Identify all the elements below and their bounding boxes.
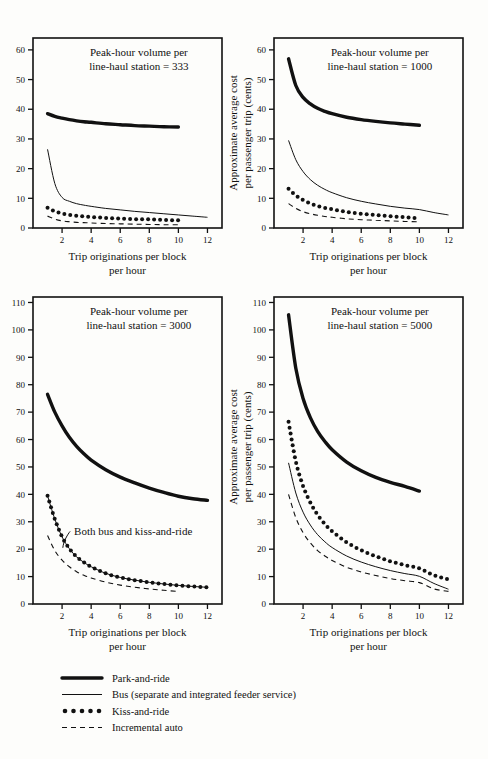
x-axis-label-line2: per hour: [109, 640, 146, 652]
y-tick-label: 0: [262, 223, 267, 233]
y-tick-label: 50: [16, 462, 26, 472]
panel-title-line1: Peak-hour volume per: [90, 305, 188, 317]
chart-panel-panel-1000: 010203040506024681012Peak-hour volume pe…: [257, 38, 463, 276]
x-axis-label-line2: per hour: [109, 264, 146, 276]
y-tick-label: 20: [257, 544, 267, 554]
y-tick-label: 90: [16, 353, 26, 363]
panel-title-line1: Peak-hour volume per: [90, 46, 188, 58]
x-tick-label: 6: [359, 235, 364, 245]
x-tick-label: 10: [415, 611, 425, 621]
x-axis-label-line2: per hour: [350, 264, 387, 276]
y-tick-label: 30: [257, 134, 267, 144]
legend-swatch-kiss: [63, 709, 102, 714]
y-tick-label: 20: [257, 164, 267, 174]
chart-panel-panel-5000: 010203040506070809010011024681012Peak-ho…: [253, 297, 464, 652]
x-tick-label: 10: [415, 235, 425, 245]
figure-root: 010203040506024681012Peak-hour volume pe…: [0, 0, 488, 759]
y-tick-label: 90: [257, 353, 267, 363]
y-tick-label: 40: [16, 104, 26, 114]
series-kiss-and-ride: [287, 187, 417, 220]
panel-title-line2: line-haul station = 1000: [327, 60, 432, 72]
y-tick-label: 110: [12, 298, 26, 308]
y-tick-label: 60: [257, 435, 267, 445]
x-tick-label: 8: [147, 235, 152, 245]
panel-title-line2: line-haul station = 5000: [327, 319, 432, 331]
legend: Park-and-rideBus (separate and integrate…: [62, 673, 296, 734]
legend-item-kiss: Kiss-and-ride: [63, 706, 170, 717]
x-tick-label: 8: [388, 235, 393, 245]
legend-label-park: Park-and-ride: [112, 673, 170, 684]
y-tick-label: 80: [257, 380, 267, 390]
x-tick-label: 6: [118, 611, 123, 621]
y-tick-label: 50: [16, 75, 26, 85]
x-tick-label: 12: [444, 611, 453, 621]
chart-panel-panel-333: 010203040506024681012Peak-hour volume pe…: [16, 38, 222, 276]
x-tick-label: 8: [388, 611, 393, 621]
panel-title-line2: line-haul station = 3000: [86, 319, 191, 331]
x-axis-label-line1: Trip originations per block: [69, 626, 187, 638]
x-tick-label: 8: [147, 611, 152, 621]
y-tick-label: 20: [16, 544, 26, 554]
plot-frame: [33, 297, 222, 604]
y-axis-label-bottom: Approximate average costper passenger tr…: [227, 389, 254, 504]
y-axis-label-top: Approximate average costper passenger tr…: [227, 75, 254, 190]
y-tick-label: 60: [16, 435, 26, 445]
x-tick-label: 2: [301, 235, 306, 245]
legend-label-bus: Bus (separate and integrated feeder serv…: [112, 689, 296, 701]
x-tick-label: 6: [359, 611, 364, 621]
x-tick-label: 4: [89, 611, 94, 621]
y-tick-label: 40: [257, 490, 267, 500]
y-tick-label: 50: [257, 462, 267, 472]
plot-frame: [274, 297, 463, 604]
y-tick-label: 60: [257, 45, 267, 55]
series-park-and-ride: [48, 114, 179, 127]
y-tick-label: 0: [21, 223, 26, 233]
x-tick-label: 12: [444, 235, 453, 245]
y-tick-label: 60: [16, 45, 26, 55]
legend-item-auto: Incremental auto: [62, 722, 183, 733]
x-tick-label: 6: [118, 235, 123, 245]
x-axis-label-line1: Trip originations per block: [310, 626, 428, 638]
x-tick-label: 4: [330, 235, 335, 245]
y-tick-label: 10: [257, 194, 267, 204]
x-tick-label: 2: [60, 235, 65, 245]
charts-canvas: 010203040506024681012Peak-hour volume pe…: [0, 0, 488, 759]
y-tick-label: 80: [16, 380, 26, 390]
panel-title-line2: line-haul station = 333: [89, 60, 189, 72]
y-tick-label: 30: [16, 134, 26, 144]
y-tick-label: 10: [16, 572, 26, 582]
y-tick-label: 10: [257, 572, 267, 582]
series-kiss-and-ride: [46, 206, 181, 222]
legend-label-auto: Incremental auto: [112, 722, 183, 733]
y-tick-label: 10: [16, 194, 26, 204]
legend-item-park: Park-and-ride: [62, 673, 170, 684]
y-tick-label: 40: [257, 104, 267, 114]
x-axis-label-line2: per hour: [350, 640, 387, 652]
panel-title-line1: Peak-hour volume per: [331, 305, 429, 317]
x-tick-label: 12: [203, 235, 212, 245]
series-bus: [48, 149, 208, 217]
series-park-and-ride: [289, 315, 420, 491]
y-tick-label: 0: [262, 599, 267, 609]
legend-label-kiss: Kiss-and-ride: [112, 706, 169, 717]
y-tick-label: 70: [16, 407, 26, 417]
annotation-both-bus-and-kiss: Both bus and kiss-and-ride: [74, 525, 192, 537]
y-tick-label: 100: [253, 325, 267, 335]
y-tick-label: 110: [253, 298, 267, 308]
x-tick-label: 2: [301, 611, 306, 621]
x-tick-label: 4: [89, 235, 94, 245]
x-tick-label: 10: [174, 235, 184, 245]
series-both-bus-and-kiss-and-ride: [46, 494, 209, 589]
y-tick-label: 30: [257, 517, 267, 527]
y-tick-label: 30: [16, 517, 26, 527]
panel-title-line1: Peak-hour volume per: [331, 46, 429, 58]
series-kiss-and-ride: [287, 420, 449, 581]
chart-panel-panel-3000: 010203040506070809010011024681012Peak-ho…: [12, 297, 223, 652]
x-tick-label: 2: [60, 611, 65, 621]
y-axis-label-line1: Approximate average cost: [227, 389, 239, 504]
x-axis-label-line1: Trip originations per block: [69, 250, 187, 262]
x-tick-label: 4: [330, 611, 335, 621]
series-park-and-ride: [48, 394, 208, 500]
y-tick-label: 100: [12, 325, 26, 335]
legend-item-bus: Bus (separate and integrated feeder serv…: [62, 689, 296, 701]
